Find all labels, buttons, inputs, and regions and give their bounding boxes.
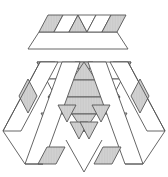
pattern-block-figure: Pattern block geometric figure A detache…	[0, 0, 168, 177]
geometric-figure-canvas: Pattern block geometric figure A detache…	[0, 0, 168, 177]
top-band-lower-trapezoid	[28, 32, 128, 49]
